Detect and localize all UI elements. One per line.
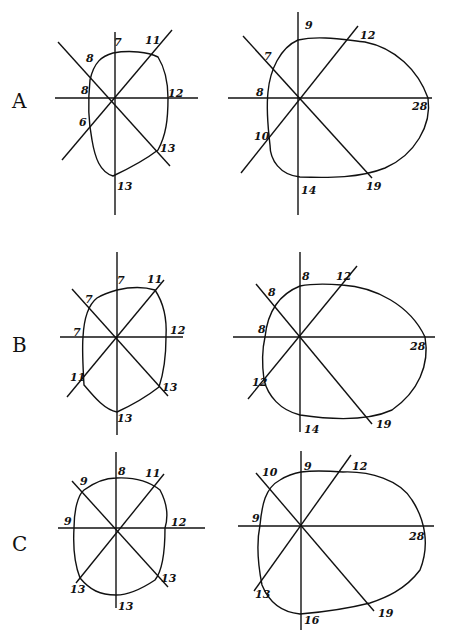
label-c-right-se: 19: [378, 607, 394, 620]
label-a-right-nw: 7: [264, 50, 272, 63]
label-a-left-ne: 11: [145, 34, 160, 47]
label-a-right-s: 14: [301, 184, 316, 197]
label-b-left-ne: 11: [147, 273, 162, 286]
label-b-right-e: 28: [409, 340, 426, 353]
label-b-right-ne: 12: [336, 270, 352, 283]
label-a-left-se: 13: [160, 142, 176, 155]
label-a-right-w: 8: [256, 86, 264, 99]
label-c-left-nw: 9: [80, 475, 88, 488]
label-b-left-se: 13: [162, 381, 178, 394]
label-a-left-s: 13: [117, 180, 133, 193]
radial-diagram-canvas: 7 11 12 13 13 6 8 8 9 12 28 19 14 10 8 7…: [0, 0, 451, 635]
label-b-right-nw: 8: [268, 286, 276, 299]
label-c-left-ne: 11: [145, 467, 160, 480]
label-c-right-w: 9: [252, 512, 260, 525]
label-b-right-se: 19: [376, 418, 392, 431]
label-c-left-n: 8: [118, 465, 126, 478]
label-a-right-sw: 10: [254, 130, 270, 143]
label-c-left-sw: 13: [70, 583, 86, 596]
label-a-right-ne: 12: [360, 29, 376, 42]
label-a-left-e: 12: [168, 87, 184, 100]
label-c-left-se: 13: [161, 572, 177, 585]
label-b-left-nw: 7: [85, 293, 93, 306]
label-a-right-e: 28: [411, 100, 428, 113]
figure-b-right: [233, 252, 435, 432]
label-b-left-sw: 11: [70, 371, 85, 384]
label-c-left-e: 12: [171, 516, 187, 529]
label-b-left-e: 12: [170, 324, 186, 337]
label-c-left-w: 9: [64, 515, 72, 528]
label-c-right-sw: 13: [255, 588, 271, 601]
label-b-right-sw: 12: [252, 376, 268, 389]
labels-a-right: 9 12 28 19 14 10 8 7: [254, 19, 428, 197]
label-b-right-w: 8: [258, 323, 266, 336]
label-b-right-n: 8: [302, 270, 310, 283]
label-c-right-nw: 10: [262, 466, 278, 479]
label-c-right-ne: 12: [352, 460, 368, 473]
labels-b-right: 8 12 28 19 14 12 8 8: [252, 270, 426, 436]
label-c-right-s: 16: [304, 614, 320, 627]
label-c-right-e: 28: [408, 530, 425, 543]
label-b-left-n: 7: [117, 274, 125, 287]
label-a-left-sw: 6: [79, 116, 87, 129]
label-c-left-s: 13: [118, 600, 134, 613]
label-b-left-w: 7: [73, 326, 81, 339]
label-c-right-n: 9: [304, 460, 312, 473]
label-a-left-n: 7: [114, 36, 122, 49]
label-b-right-s: 14: [304, 423, 319, 436]
figure-a-right: [228, 12, 432, 215]
label-a-right-se: 19: [366, 180, 382, 193]
label-a-right-n: 9: [305, 19, 313, 32]
label-b-left-s: 13: [117, 412, 133, 425]
labels-c-right: 9 12 28 19 16 13 9 10: [252, 460, 425, 627]
label-a-left-nw: 8: [86, 52, 94, 65]
label-a-left-w: 8: [81, 84, 89, 97]
labels-b-left: 7 11 12 13 13 11 7 7: [70, 273, 186, 425]
